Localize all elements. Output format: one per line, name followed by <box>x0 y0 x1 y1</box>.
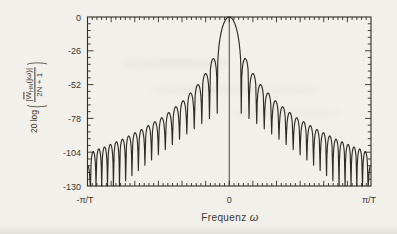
window-symbol: W <box>25 92 34 100</box>
x-tick-label: -π/T <box>63 195 107 205</box>
y-tick-label: -104 <box>47 148 81 158</box>
y-tick-label: -130 <box>47 182 81 192</box>
y-tick-label: -26 <box>47 46 81 56</box>
abs-bar: | <box>25 68 34 70</box>
omega-symbol: ω <box>250 211 259 223</box>
y-tick-label: -52 <box>47 80 81 90</box>
y-axis-label-prefix: 20 log <box>30 110 40 133</box>
window-argument: (jω) <box>25 70 34 83</box>
y-tick-label: 0 <box>47 13 81 23</box>
scanned-figure-page: 20 log ( |WHN(jω)| 2N + 1 ) Frequenz ω 0… <box>0 0 397 234</box>
x-tick-label: π/T <box>347 195 391 205</box>
x-tick-label: 0 <box>207 195 251 205</box>
close-paren: ) <box>23 62 47 65</box>
x-axis-label: Frequenz ω <box>184 211 276 223</box>
open-paren: ( <box>23 104 47 107</box>
fraction-numerator: |WHN(jω)| <box>25 67 36 103</box>
window-subscript: HN <box>28 83 34 92</box>
y-axis-label-fraction: |WHN(jω)| 2N + 1 <box>25 67 46 103</box>
x-axis-label-text: Frequenz <box>201 212 246 223</box>
fraction-denominator: 2N + 1 <box>36 73 46 97</box>
y-tick-label: -78 <box>47 114 81 124</box>
